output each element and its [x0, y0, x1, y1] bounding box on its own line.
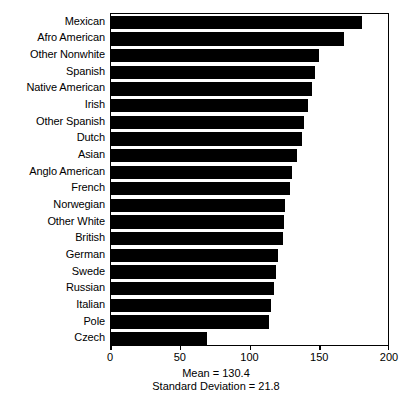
- category-label: Irish: [0, 99, 105, 110]
- category-label: Other Spanish: [0, 116, 105, 127]
- category-label: Swede: [0, 266, 105, 277]
- bar: [111, 249, 278, 262]
- x-tick-mark: [388, 345, 390, 350]
- caption-mean: Mean = 130.4: [14, 367, 418, 380]
- x-tick-mark: [110, 345, 112, 350]
- category-label: Asian: [0, 149, 105, 160]
- x-tick-label: 150: [310, 351, 328, 363]
- bar: [111, 82, 312, 95]
- bar: [111, 16, 362, 29]
- bar: [111, 32, 344, 45]
- category-label: British: [0, 232, 105, 243]
- plot-area: [110, 13, 389, 346]
- category-label: Pole: [0, 316, 105, 327]
- category-label: German: [0, 249, 105, 260]
- chart-caption: Mean = 130.4 Standard Deviation = 21.8: [0, 367, 418, 393]
- bars-container: [111, 14, 388, 345]
- category-label: Afro American: [0, 32, 105, 43]
- x-tick-mark: [180, 345, 182, 350]
- x-axis-tick-labels: 050100150200: [0, 351, 418, 365]
- bar: [111, 49, 319, 62]
- bar: [111, 66, 315, 79]
- bar: [111, 299, 271, 312]
- category-label: Anglo American: [0, 166, 105, 177]
- bar: [111, 265, 276, 278]
- bar: [111, 232, 283, 245]
- bar: [111, 149, 297, 162]
- bar: [111, 215, 284, 228]
- bar: [111, 332, 207, 345]
- category-label: Italian: [0, 299, 105, 310]
- category-label: Native American: [0, 82, 105, 93]
- bar: [111, 182, 290, 195]
- category-label: Mexican: [0, 16, 105, 27]
- bar: [111, 99, 308, 112]
- category-label: Norwegian: [0, 199, 105, 210]
- bar: [111, 132, 302, 145]
- category-axis-labels: MexicanAfro AmericanOther NonwhiteSpanis…: [0, 13, 105, 345]
- bar: [111, 166, 292, 179]
- category-label: Russian: [0, 282, 105, 293]
- bar-chart: MexicanAfro AmericanOther NonwhiteSpanis…: [0, 0, 418, 399]
- x-tick-mark: [250, 345, 252, 350]
- bar: [111, 116, 304, 129]
- bar: [111, 315, 269, 328]
- category-label: Spanish: [0, 66, 105, 77]
- caption-standard-deviation: Standard Deviation = 21.8: [14, 380, 418, 393]
- x-tick-label: 50: [174, 351, 186, 363]
- x-tick-label: 0: [107, 351, 113, 363]
- x-tick-label: 200: [380, 351, 398, 363]
- category-label: Dutch: [0, 132, 105, 143]
- category-label: Czech: [0, 332, 105, 343]
- bar: [111, 199, 285, 212]
- bar: [111, 282, 274, 295]
- category-label: Other White: [0, 216, 105, 227]
- category-label: Other Nonwhite: [0, 49, 105, 60]
- x-tick-label: 100: [240, 351, 258, 363]
- x-tick-mark: [319, 345, 321, 350]
- category-label: French: [0, 182, 105, 193]
